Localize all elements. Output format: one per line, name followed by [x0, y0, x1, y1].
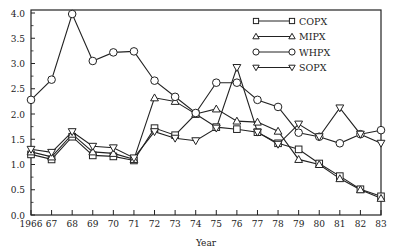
triangle-down-marker [109, 145, 117, 152]
circle-marker [289, 49, 295, 55]
circle-marker [130, 48, 138, 56]
legend-label: WHPX [299, 47, 330, 58]
x-tick-label: 68 [66, 219, 78, 229]
series-mipx [31, 98, 381, 199]
legend-item-whpx: WHPX [253, 47, 331, 58]
triangle-down-marker [192, 138, 200, 145]
circle-marker [212, 79, 220, 87]
series-copx [31, 114, 381, 196]
series-markers-sopx [27, 65, 385, 162]
y-tick-label: 1.0 [11, 160, 26, 170]
circle-marker [253, 49, 259, 55]
circle-marker [274, 103, 282, 111]
x-tick-label: 71 [128, 219, 139, 229]
triangle-down-marker [377, 140, 385, 147]
circle-marker [233, 79, 241, 87]
legend-label: SOPX [299, 62, 327, 73]
square-marker [295, 146, 302, 153]
circle-marker [171, 93, 179, 101]
triangle-up-marker [212, 105, 220, 112]
triangle-up-marker [274, 127, 282, 134]
x-tick-label: 67 [46, 219, 58, 229]
circle-marker [68, 10, 76, 18]
x-tick-label: 82 [355, 219, 366, 229]
series-line [31, 98, 381, 199]
x-tick-label: 76 [231, 219, 243, 229]
triangle-down-marker [233, 65, 241, 72]
triangle-up-marker [151, 94, 159, 101]
x-tick-label: 81 [334, 219, 345, 229]
x-tick-label: 70 [108, 219, 120, 229]
x-tick-label: 83 [375, 219, 387, 229]
series-markers-mipx [27, 94, 385, 201]
triangle-down-marker [48, 149, 56, 156]
square-marker [289, 18, 294, 23]
y-tick-label: 4.0 [11, 9, 26, 19]
y-tick-label: 3.5 [11, 34, 26, 44]
x-tick-label: 73 [169, 219, 181, 229]
legend-label: COPX [299, 16, 327, 27]
legend-item-sopx: SOPX [253, 62, 327, 73]
circle-marker [27, 96, 35, 104]
circle-marker [151, 77, 159, 85]
y-tick-label: 1.5 [11, 135, 26, 145]
x-axis: 19666768697071727374757677787980818283 [20, 210, 387, 229]
circle-marker [377, 126, 385, 134]
circle-marker [192, 109, 200, 117]
series-markers-whpx [27, 10, 385, 147]
y-tick-label: 0.5 [11, 185, 26, 195]
line-chart: 0.00.51.01.52.02.53.03.54.0 196667686970… [0, 0, 393, 251]
series-line [31, 114, 381, 196]
x-tick-label: 80 [314, 219, 326, 229]
legend-label: MIPX [299, 31, 326, 42]
x-tick-label: 72 [149, 219, 160, 229]
x-tick-label: 1966 [20, 219, 43, 229]
series-markers-copx [28, 111, 385, 200]
legend-item-mipx: MIPX [253, 31, 326, 42]
circle-marker [295, 129, 303, 137]
series-lines [27, 10, 385, 201]
chart-canvas: 0.00.51.01.52.02.53.03.54.0 196667686970… [0, 0, 393, 251]
circle-marker [110, 49, 118, 57]
y-tick-label: 3.0 [11, 59, 26, 69]
x-tick-label: 78 [272, 219, 284, 229]
circle-marker [336, 139, 344, 147]
legend: COPXMIPXWHPXSOPX [253, 16, 331, 74]
square-marker [253, 18, 258, 23]
x-tick-label: 74 [190, 219, 202, 229]
circle-marker [48, 76, 56, 84]
circle-marker [89, 57, 97, 65]
x-tick-label: 75 [211, 219, 223, 229]
x-tick-label: 79 [293, 219, 305, 229]
x-axis-label: Year [195, 238, 217, 248]
legend-item-copx: COPX [253, 16, 327, 27]
y-tick-label: 2.0 [11, 110, 26, 120]
y-tick-label: 2.5 [11, 84, 26, 94]
x-tick-label: 77 [252, 219, 264, 229]
circle-marker [254, 96, 262, 104]
x-tick-label: 69 [87, 219, 99, 229]
triangle-up-marker [233, 117, 241, 124]
square-marker [234, 126, 241, 133]
